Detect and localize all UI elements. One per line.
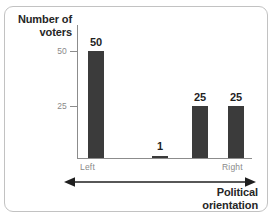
bar-right-outer — [228, 106, 244, 158]
y-axis-title-line2: voters — [4, 26, 72, 39]
bar-center — [152, 156, 168, 159]
bar-value-right-inner: 25 — [187, 91, 213, 103]
x-tick-label-left: Left — [80, 162, 95, 172]
x-axis-title-line1: Political — [217, 186, 258, 198]
bar-value-center: 1 — [147, 140, 173, 152]
y-axis-line — [77, 25, 78, 159]
x-axis-title-line2: orientation — [150, 199, 258, 212]
bar-value-right-outer: 25 — [223, 91, 249, 103]
bar-chart: Number of voters 50 25 50 1 25 25 Left R… — [0, 0, 274, 220]
x-tick-label-right: Right — [222, 162, 243, 172]
x-axis-title: Political orientation — [150, 186, 258, 211]
y-axis-title: Number of voters — [4, 13, 72, 38]
bar-value-left: 50 — [83, 36, 109, 48]
bar-right-inner — [192, 106, 208, 158]
bar-left — [88, 51, 104, 158]
x-axis-line — [77, 158, 252, 159]
y-tick-mark-50 — [70, 51, 78, 52]
y-tick-label-50: 50 — [41, 46, 67, 56]
y-tick-label-25: 25 — [41, 101, 67, 111]
y-axis-title-line1: Number of — [18, 13, 72, 25]
y-tick-mark-25 — [70, 106, 78, 107]
